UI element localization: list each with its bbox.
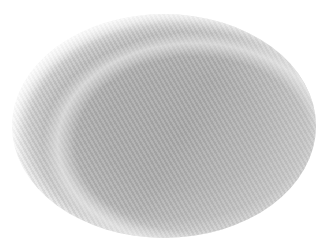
photo-scene [0,0,331,238]
disc-edge-fade [12,14,316,238]
